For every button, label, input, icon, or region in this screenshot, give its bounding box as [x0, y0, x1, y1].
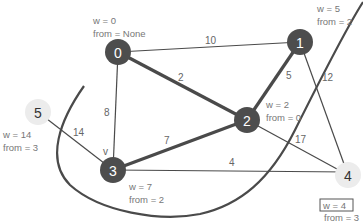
v-marker: v: [103, 146, 108, 157]
node-5-w: w = 14: [2, 129, 31, 140]
weight-3-4: 4: [229, 157, 235, 168]
node-4-from: from = 3: [324, 212, 359, 221]
node-1-from: from = 2: [317, 16, 352, 27]
node-5-label: 5: [34, 105, 42, 121]
node-1-label: 1: [296, 35, 304, 51]
node-0-from: from = None: [93, 28, 146, 39]
weight-0-3: 8: [104, 107, 110, 118]
edge-0-3: [113, 52, 118, 170]
edge-0-2: [118, 52, 247, 120]
node-2-w: w = 2: [265, 99, 289, 110]
node-0-w: w = 0: [92, 15, 116, 26]
node-3-w: w = 7: [128, 181, 152, 192]
weight-1-4: 12: [322, 72, 334, 83]
edge-3-4: [113, 170, 348, 172]
node-2-label: 2: [243, 113, 251, 129]
graph-diagram: 10 2 8 5 12 7 17 4 14 v 0 1 2 3 4 5 w = …: [0, 0, 363, 221]
edge-2-3: [113, 120, 247, 170]
node-2-from: from = 0: [266, 112, 301, 123]
node-5-from: from = 3: [3, 142, 38, 153]
weight-2-4: 17: [295, 134, 307, 145]
weight-0-1: 10: [205, 35, 217, 46]
node-1-w: w = 5: [316, 3, 340, 14]
node-0-label: 0: [114, 45, 122, 61]
node-4-w: w = 4: [322, 200, 346, 211]
node-3-from: from = 2: [129, 194, 164, 205]
edge-2-4: [247, 120, 348, 175]
weight-1-2: 5: [286, 70, 292, 81]
node-3-label: 3: [109, 163, 117, 179]
node-4-label: 4: [344, 168, 352, 184]
weight-0-2: 2: [178, 72, 184, 83]
edge-1-4: [300, 42, 348, 175]
weight-2-3: 7: [164, 135, 170, 146]
edge-5-3: [38, 112, 113, 170]
weight-5-3: 14: [73, 127, 85, 138]
